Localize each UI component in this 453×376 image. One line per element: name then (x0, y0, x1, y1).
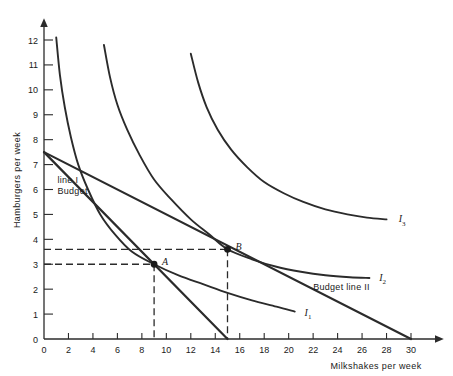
y-axis-tick-label: 12 (28, 36, 38, 46)
data-point-label-a: A (161, 256, 169, 267)
x-axis-tick-label: 0 (41, 345, 46, 355)
y-axis-tick-label: 11 (29, 60, 38, 70)
y-axis-tick-label: 1 (33, 310, 38, 320)
guide-lines-group (44, 249, 228, 339)
curve-label-i3: I3 (398, 213, 406, 227)
indifference-curve-i3 (191, 54, 387, 220)
indifference-curve-i1 (56, 38, 295, 312)
y-axis-tick-label: 4 (33, 235, 38, 245)
x-axis-tick-label: 8 (139, 345, 144, 355)
tick-labels-group: 0246810121416182022242628301234567891011… (12, 36, 422, 372)
x-axis-title: Milkshakes per week (330, 361, 421, 371)
chart-svg: 0246810121416182022242628301234567891011… (0, 0, 453, 376)
x-axis-tick-label: 16 (235, 345, 245, 355)
x-axis-tick-label: 28 (382, 345, 392, 355)
y-axis-tick-label: 6 (33, 185, 38, 195)
x-axis-tick-label: 20 (284, 345, 294, 355)
x-axis-tick-label: 10 (161, 345, 171, 355)
budget-line-i-label-line2: line I (57, 175, 78, 185)
y-axis-title: Hamburgers per week (12, 132, 22, 228)
x-axis-tick-label: 6 (115, 345, 120, 355)
y-axis-tick-label: 5 (33, 210, 38, 220)
data-point-b (224, 246, 231, 253)
indifference-curves-group (56, 38, 386, 312)
x-axis-tick-label: 14 (210, 345, 220, 355)
y-axis-tick-label: 3 (33, 260, 38, 270)
x-axis-tick-label: 2 (66, 345, 71, 355)
x-axis-tick-label: 24 (333, 345, 343, 355)
y-axis-tick-label: 10 (28, 85, 38, 95)
y-axis-tick-label: 8 (33, 135, 38, 145)
budget-line-ii-label: Budget line II (313, 282, 370, 292)
data-point-a (151, 261, 158, 268)
y-axis-tick-label: 9 (33, 110, 38, 120)
y-axis-tick-label: 7 (33, 160, 38, 170)
data-point-label-b: B (236, 241, 242, 252)
y-axis-origin-label: 0 (33, 335, 38, 345)
x-axis-tick-label: 18 (259, 345, 269, 355)
x-axis-tick-label: 4 (90, 345, 95, 355)
x-axis-tick-label: 26 (357, 345, 367, 355)
x-axis-tick-label: 22 (308, 345, 318, 355)
y-axis-tick-label: 2 (33, 285, 38, 295)
budget-line-i-label: Budget (57, 186, 88, 196)
indifference-curve-figure: 0246810121416182022242628301234567891011… (0, 0, 453, 376)
curve-label-i1: I1 (304, 307, 312, 321)
x-axis-tick-label: 30 (406, 345, 416, 355)
curve-label-i2: I2 (378, 272, 386, 286)
x-axis-tick-label: 12 (186, 345, 196, 355)
